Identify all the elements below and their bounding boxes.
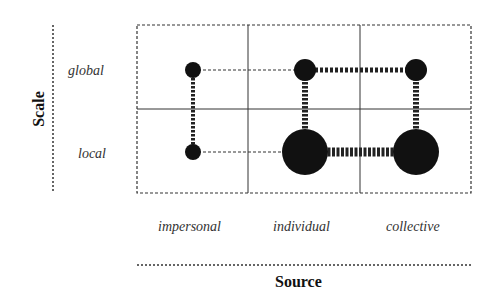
node-impersonal-global (185, 62, 201, 78)
node-collective-global (405, 59, 427, 81)
row-label-local: local (78, 146, 106, 162)
column-label-impersonal: impersonal (158, 219, 221, 235)
scale-source-diagram (0, 0, 497, 304)
y-axis-title: Scale (30, 84, 48, 134)
column-label-individual: individual (273, 219, 330, 235)
column-label-collective: collective (386, 219, 440, 235)
node-individual-global (294, 59, 316, 81)
x-axis-title: Source (275, 273, 322, 291)
row-label-global: global (68, 63, 104, 79)
node-collective-local (393, 129, 439, 175)
node-impersonal-local (185, 144, 201, 160)
node-individual-local (282, 129, 328, 175)
